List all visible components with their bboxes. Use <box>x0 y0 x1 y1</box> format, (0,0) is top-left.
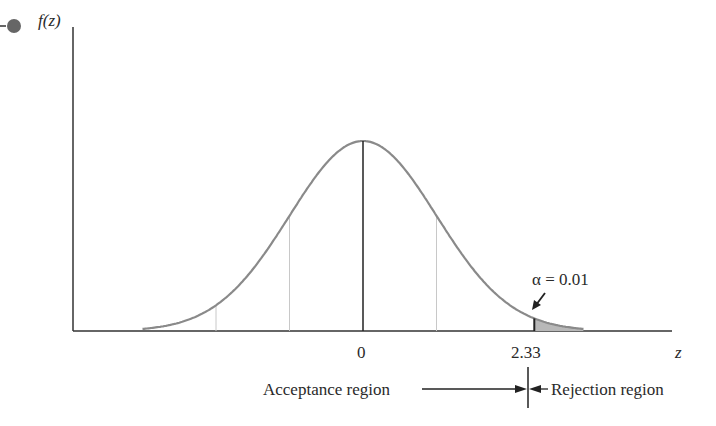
tick-label-zero: 0 <box>357 343 366 362</box>
acceptance-arrowhead-icon <box>515 385 527 393</box>
bullet-marker-icon <box>7 19 21 33</box>
x-axis-label: z <box>674 343 682 362</box>
rejection-region-label: Rejection region <box>551 380 664 399</box>
y-axis-label: f(z) <box>38 11 61 30</box>
acceptance-region-label: Acceptance region <box>263 380 390 399</box>
tick-label-critical: 2.33 <box>511 343 541 362</box>
alpha-label: α = 0.01 <box>532 270 589 289</box>
normal-distribution-chart: f(z) z 0 2.33 α = 0.01 Acceptance region… <box>0 0 716 426</box>
